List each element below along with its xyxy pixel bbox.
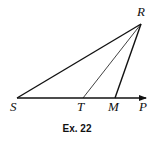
label-P: P [138, 99, 147, 114]
label-T: T [77, 99, 85, 114]
label-R: R [136, 4, 145, 19]
segment-TR [83, 24, 141, 98]
geometry-figure: R S T M P Ex. 22 [0, 0, 154, 143]
figure-caption: Ex. 22 [63, 123, 92, 134]
label-S: S [10, 99, 17, 114]
label-M: M [107, 99, 120, 114]
segment-MR [115, 24, 141, 98]
segment-SR [17, 24, 141, 98]
